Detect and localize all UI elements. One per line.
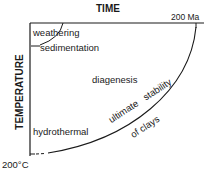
region-diagenesis: diagenesis [92, 75, 137, 85]
time-axis-end-label: 200 Ma [171, 13, 199, 22]
temperature-axis-title: TEMPERATURE [15, 52, 25, 132]
time-axis-title: TIME [96, 4, 120, 14]
region-weathering: weathering [33, 28, 79, 38]
temperature-axis-end-label: 200°C [2, 160, 29, 170]
region-sedimentation: sedimentation [40, 43, 99, 53]
clay-stability-dashed-end [36, 154, 45, 155]
region-hydrothermal: hydrothermal [33, 127, 88, 137]
diagram-canvas [0, 0, 213, 178]
